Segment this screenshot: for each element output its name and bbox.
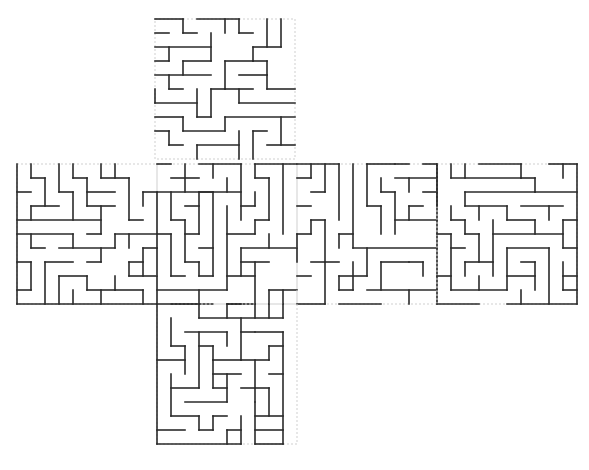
maze-face-front bbox=[157, 164, 297, 304]
cube-net-maze bbox=[0, 0, 589, 470]
maze-face-left bbox=[17, 164, 157, 304]
maze-face-right bbox=[297, 164, 437, 304]
maze-face-bottom bbox=[157, 304, 297, 444]
maze-face-top bbox=[155, 19, 295, 159]
maze-face-back bbox=[437, 164, 577, 304]
